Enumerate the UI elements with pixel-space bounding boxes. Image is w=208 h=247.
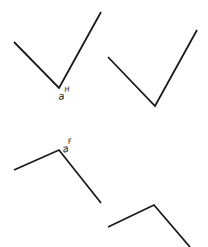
angle-figure-bottom-left: [14, 150, 101, 203]
label-superscript: H: [64, 85, 70, 94]
diagram-canvas: aH aF: [0, 0, 208, 247]
vertex-label-a-h: aH: [57, 85, 72, 103]
angle-figures: [0, 0, 208, 247]
angle-figure-top-right: [108, 30, 197, 106]
angle-figure-bottom-right: [108, 205, 190, 247]
angle-figure-top-left: [14, 12, 101, 88]
